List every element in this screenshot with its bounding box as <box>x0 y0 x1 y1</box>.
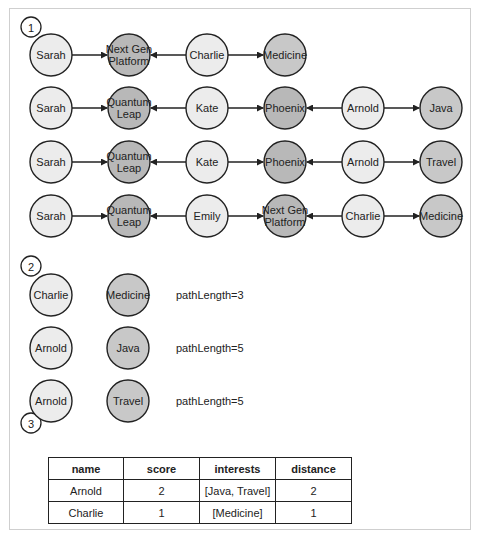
header-interests: interests <box>200 458 276 480</box>
svg-text:Sarah: Sarah <box>36 210 65 222</box>
node-phoenix: Phoenix <box>264 141 306 183</box>
path-length-label: pathLength=5 <box>176 342 244 354</box>
node-medicine: Medicine <box>106 274 150 316</box>
node-arnold: Arnold <box>342 87 384 129</box>
table-header-row: name score interests distance <box>49 458 352 480</box>
section-marker-1: 1 <box>21 17 41 37</box>
svg-text:Platform: Platform <box>109 55 150 67</box>
path-row: SarahQuantumLeapKatePhoenixArnoldTravel <box>30 141 462 183</box>
svg-text:Medicine: Medicine <box>106 289 150 301</box>
node-quantum-leap: QuantumLeap <box>106 87 151 129</box>
svg-text:Sarah: Sarah <box>36 156 65 168</box>
node-quantum-leap: QuantumLeap <box>106 141 151 183</box>
svg-text:Next Gen: Next Gen <box>106 43 152 55</box>
node-kate: Kate <box>186 141 228 183</box>
node-charlie: Charlie <box>342 195 384 237</box>
node-java: Java <box>107 327 149 369</box>
node-arnold: Arnold <box>342 141 384 183</box>
table-row: Arnold 2 [Java, Travel] 2 <box>49 480 352 502</box>
path-row: SarahQuantumLeapEmilyNext GenPlatformCha… <box>30 195 463 237</box>
svg-text:Charlie: Charlie <box>34 289 69 301</box>
cell-score: 2 <box>124 480 200 502</box>
svg-text:Arnold: Arnold <box>347 156 379 168</box>
node-next-gen-platform: Next GenPlatform <box>106 34 152 76</box>
node-medicine: Medicine <box>419 195 463 237</box>
node-travel: Travel <box>420 141 462 183</box>
path-row: SarahQuantumLeapKatePhoenixArnoldJava <box>30 87 462 129</box>
header-name: name <box>49 458 124 480</box>
svg-text:Quantum: Quantum <box>106 204 151 216</box>
node-medicine: Medicine <box>263 34 307 76</box>
svg-text:Sarah: Sarah <box>36 49 65 61</box>
node-sarah: Sarah <box>30 34 72 76</box>
pair-row: CharlieMedicinepathLength=3 <box>30 274 244 316</box>
cell-name: Charlie <box>49 502 124 524</box>
svg-text:Next Gen: Next Gen <box>262 204 308 216</box>
svg-text:Charlie: Charlie <box>346 210 381 222</box>
svg-text:Quantum: Quantum <box>106 96 151 108</box>
svg-text:Arnold: Arnold <box>35 395 67 407</box>
node-next-gen-platform: Next GenPlatform <box>262 195 308 237</box>
svg-text:Leap: Leap <box>117 108 141 120</box>
cell-distance: 2 <box>276 480 352 502</box>
node-sarah: Sarah <box>30 87 72 129</box>
svg-text:Phoenix: Phoenix <box>265 102 305 114</box>
svg-text:Travel: Travel <box>426 156 456 168</box>
node-phoenix: Phoenix <box>264 87 306 129</box>
pair-row: ArnoldTravelpathLength=5 <box>30 380 244 422</box>
svg-text:Leap: Leap <box>117 162 141 174</box>
svg-text:1: 1 <box>28 22 34 34</box>
cell-interests: [Java, Travel] <box>200 480 276 502</box>
svg-text:Kate: Kate <box>196 156 219 168</box>
svg-text:Emily: Emily <box>194 210 221 222</box>
cell-distance: 1 <box>276 502 352 524</box>
section-marker-2: 2 <box>21 256 41 276</box>
svg-text:Charlie: Charlie <box>190 49 225 61</box>
svg-text:Leap: Leap <box>117 216 141 228</box>
svg-text:Medicine: Medicine <box>263 49 307 61</box>
table-row: Charlie 1 [Medicine] 1 <box>49 502 352 524</box>
pair-row: ArnoldJavapathLength=5 <box>30 327 244 369</box>
header-score: score <box>124 458 200 480</box>
cell-interests: [Medicine] <box>200 502 276 524</box>
svg-text:Java: Java <box>116 342 140 354</box>
svg-text:Platform: Platform <box>265 216 306 228</box>
cell-score: 1 <box>124 502 200 524</box>
path-length-label: pathLength=5 <box>176 395 244 407</box>
node-quantum-leap: QuantumLeap <box>106 195 151 237</box>
path-row: SarahNext GenPlatformCharlieMedicine <box>30 34 307 76</box>
svg-text:Arnold: Arnold <box>35 342 67 354</box>
svg-text:Sarah: Sarah <box>36 102 65 114</box>
node-charlie: Charlie <box>30 274 72 316</box>
node-charlie: Charlie <box>186 34 228 76</box>
svg-text:Arnold: Arnold <box>347 102 379 114</box>
node-emily: Emily <box>186 195 228 237</box>
results-table: name score interests distance Arnold 2 [… <box>48 457 352 524</box>
svg-text:Kate: Kate <box>196 102 219 114</box>
node-travel: Travel <box>107 380 149 422</box>
node-java: Java <box>420 87 462 129</box>
header-distance: distance <box>276 458 352 480</box>
node-sarah: Sarah <box>30 141 72 183</box>
cell-name: Arnold <box>49 480 124 502</box>
path-length-label: pathLength=3 <box>176 289 244 301</box>
node-arnold: Arnold <box>30 380 72 422</box>
node-kate: Kate <box>186 87 228 129</box>
svg-text:Java: Java <box>429 102 453 114</box>
svg-text:Phoenix: Phoenix <box>265 156 305 168</box>
svg-text:3: 3 <box>28 418 34 430</box>
svg-text:Medicine: Medicine <box>419 210 463 222</box>
node-sarah: Sarah <box>30 195 72 237</box>
node-arnold: Arnold <box>30 327 72 369</box>
svg-text:2: 2 <box>28 261 34 273</box>
svg-text:Travel: Travel <box>113 395 143 407</box>
svg-text:Quantum: Quantum <box>106 150 151 162</box>
